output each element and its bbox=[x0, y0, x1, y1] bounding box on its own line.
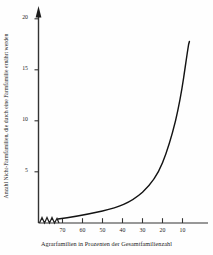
x-axis-break-zigzag-icon bbox=[40, 218, 60, 224]
y-tick-label-10: 10 bbox=[14, 117, 28, 123]
y-tick-label-5: 5 bbox=[14, 168, 28, 174]
x-tick-label-60: 60 bbox=[75, 228, 91, 234]
x-tick-label-40: 40 bbox=[115, 228, 131, 234]
y-tick-label-15: 15 bbox=[14, 66, 28, 72]
y-axis-title-container: Anzahl Nicht-Farmfamilien, die durch ein… bbox=[0, 0, 14, 232]
x-tick-label-70: 70 bbox=[55, 228, 71, 234]
chart-plot-area bbox=[0, 0, 213, 255]
x-axis-title: Agrarfamilien in Prozenten der Gesamtfam… bbox=[0, 240, 213, 247]
chart-figure: 20 15 10 5 70 60 50 40 30 20 10 Anzahl N… bbox=[0, 0, 213, 255]
y-axis-arrow-icon bbox=[36, 6, 42, 18]
y-tick-label-20: 20 bbox=[14, 15, 28, 21]
data-curve bbox=[58, 42, 189, 220]
x-tick-label-10: 10 bbox=[175, 228, 191, 234]
x-tick-label-20: 20 bbox=[155, 228, 171, 234]
x-tick-label-50: 50 bbox=[95, 228, 111, 234]
x-tick-label-30: 30 bbox=[135, 228, 151, 234]
y-axis-title: Anzahl Nicht-Farmfamilien, die durch ein… bbox=[4, 34, 10, 199]
